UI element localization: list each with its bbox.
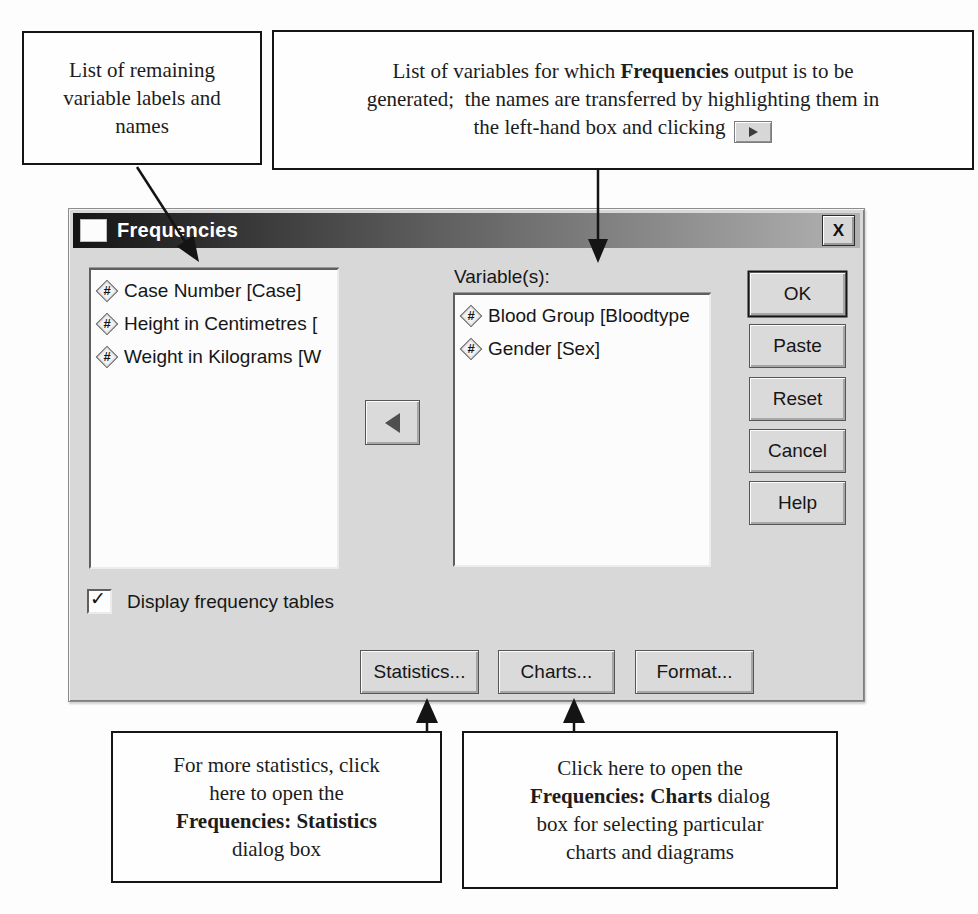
hash-glyph: # [95,345,119,369]
hash-glyph: # [95,312,119,336]
numeric-variable-icon: # [95,312,119,336]
callout-text-line: generated; the names are transferred by … [367,85,880,113]
cancel-button[interactable]: Cancel [749,429,846,473]
variable-label: Height in Centimetres [ [124,313,317,335]
transfer-button-pictogram [734,121,772,143]
callout-variables-output: List of variables for which Frequencies … [272,30,974,170]
callout-text-bold: Frequencies: Statistics [176,809,377,833]
list-item[interactable]: # Blood Group [Bloodtype [455,299,709,332]
callout-text-segment: List of variables for which [393,59,621,83]
display-frequency-tables-option[interactable]: ✓ Display frequency tables [87,589,334,614]
numeric-variable-icon: # [95,345,119,369]
list-item[interactable]: # Height in Centimetres [ [91,307,337,340]
checkbox[interactable]: ✓ [87,589,112,614]
callout-statistics: For more statistics, click here to open … [111,731,442,883]
callout-text-bold: Frequencies: Charts [530,784,712,808]
help-button[interactable]: Help [749,481,846,525]
callout-text-line: the left-hand box and clicking [474,113,773,143]
callout-text-line: List of remaining [69,56,215,84]
list-item[interactable]: # Weight in Kilograms [W [91,340,337,373]
check-icon: ✓ [90,587,106,610]
callout-text-line: Frequencies: Statistics [176,807,377,835]
checkbox-label: Display frequency tables [127,591,334,613]
ok-button[interactable]: OK [749,272,846,316]
close-button[interactable]: X [822,215,855,246]
callout-remaining-variables: List of remaining variable labels and na… [22,31,262,165]
reset-button[interactable]: Reset [749,377,846,421]
selected-variable-list[interactable]: # Blood Group [Bloodtype # Gender [Sex] [453,293,711,567]
left-arrow-icon [385,413,400,433]
callout-charts: Click here to open the Frequencies: Char… [462,731,838,889]
numeric-variable-icon: # [459,304,483,328]
right-arrow-icon [749,127,758,137]
list-item[interactable]: # Gender [Sex] [455,332,709,365]
paste-button[interactable]: Paste [749,324,846,368]
variable-label: Weight in Kilograms [W [124,346,321,368]
callout-text-line: box for selecting particular [537,810,764,838]
callout-text-line: names [115,112,169,140]
callout-text-segment: output is to be [729,59,854,83]
variable-label: Blood Group [Bloodtype [488,305,690,327]
frequencies-dialog: Frequencies X # Case Number [Case] # Hei… [68,208,865,702]
list-item[interactable]: # Case Number [Case] [91,274,337,307]
callout-text-bold: Frequencies [621,59,729,83]
hash-glyph: # [459,304,483,328]
callout-text-line: dialog box [232,835,321,863]
variable-label: Gender [Sex] [488,338,600,360]
charts-button[interactable]: Charts... [498,650,615,694]
statistics-button[interactable]: Statistics... [360,650,479,694]
transfer-button[interactable] [365,400,420,445]
window-title: Frequencies [117,219,238,242]
title-bar[interactable]: Frequencies X [73,213,860,248]
callout-text-line: charts and diagrams [566,838,734,866]
variables-list-label: Variable(s): [454,266,550,288]
numeric-variable-icon: # [95,279,119,303]
figure-frequencies-dialog-annotated: List of remaining variable labels and na… [0,0,978,914]
source-variable-list[interactable]: # Case Number [Case] # Height in Centime… [89,268,339,569]
callout-text-line: here to open the [209,779,344,807]
callout-text-segment: the left-hand box and clicking [474,115,726,139]
callout-text-segment: dialog [712,784,770,808]
hash-glyph: # [95,279,119,303]
callout-text-line: For more statistics, click [173,751,379,779]
window-icon [80,219,107,242]
format-button[interactable]: Format... [635,650,754,694]
callout-text-line: Frequencies: Charts dialog [530,782,770,810]
callout-text-line: Click here to open the [557,754,742,782]
variable-label: Case Number [Case] [124,280,301,302]
close-icon: X [833,221,844,241]
arrow-to-statistics-button [416,698,438,731]
hash-glyph: # [459,337,483,361]
arrow-to-charts-button [563,698,585,731]
callout-text-line: List of variables for which Frequencies … [393,57,854,85]
numeric-variable-icon: # [459,337,483,361]
callout-text-line: variable labels and [63,84,220,112]
